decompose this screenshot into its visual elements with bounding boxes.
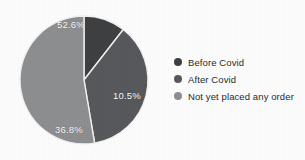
pie-chart: 52.6% 10.5% 36.8% Before Covid After Cov… xyxy=(0,0,305,160)
pie-slice-group xyxy=(20,16,148,144)
legend-swatch-after-covid xyxy=(174,75,182,83)
legend-label-before-covid: Before Covid xyxy=(188,57,244,68)
chart-legend: Before Covid After Covid Not yet placed … xyxy=(174,54,305,105)
legend-swatch-before-covid xyxy=(174,58,182,66)
pie-svg xyxy=(0,0,175,160)
slice-label-before-covid: 10.5% xyxy=(113,90,141,101)
legend-item-after-covid[interactable]: After Covid xyxy=(174,71,305,87)
legend-item-before-covid[interactable]: Before Covid xyxy=(174,54,305,70)
pie-plot-area: 52.6% 10.5% 36.8% xyxy=(0,0,175,160)
legend-label-not-yet-placed: Not yet placed any order xyxy=(188,91,294,102)
slice-label-not-yet-placed: 52.6% xyxy=(57,19,85,30)
legend-label-after-covid: After Covid xyxy=(188,74,236,85)
legend-item-not-yet-placed[interactable]: Not yet placed any order xyxy=(174,88,305,104)
slice-label-after-covid: 36.8% xyxy=(55,124,83,135)
legend-swatch-not-yet-placed xyxy=(174,92,182,100)
